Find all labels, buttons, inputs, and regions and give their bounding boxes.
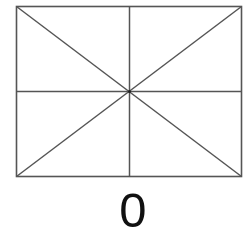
center-point	[128, 90, 131, 93]
diagram-label: 0	[0, 186, 243, 235]
diagram-canvas: 0	[0, 0, 243, 236]
